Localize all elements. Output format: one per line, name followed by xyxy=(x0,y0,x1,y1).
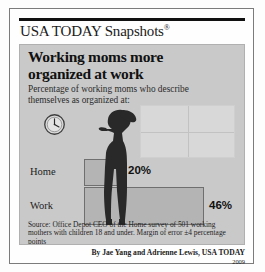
chart-panel: Working moms more organized at work Perc… xyxy=(19,44,245,245)
byline: By Jae Yang and Adrienne Lewis, USA TODA… xyxy=(19,248,245,266)
source-note: Source: Office Depot CEO of the Home sur… xyxy=(28,221,228,245)
registered-trademark-icon: ® xyxy=(164,23,170,32)
window-mullion-horizontal xyxy=(141,132,234,133)
clock-icon xyxy=(44,114,65,135)
chart-subtitle: Percentage of working moms who describe … xyxy=(28,84,228,105)
brand-title: USA TODAY Snapshots® xyxy=(20,23,170,39)
brand-header: USA TODAY Snapshots® xyxy=(20,22,246,41)
byline-credit: By Jae Yang and Adrienne Lewis, USA TODA… xyxy=(91,248,245,257)
value-label-work: 46% xyxy=(209,199,232,211)
brand-divider-rule xyxy=(19,18,245,21)
window-pane-graphic xyxy=(140,105,235,158)
byline-year: 2009 xyxy=(19,257,245,266)
chart-headline: Working moms more organized at work xyxy=(28,49,218,82)
snapshot-infographic: USA TODAY Snapshots® Working moms more o… xyxy=(0,0,265,272)
category-label-work: Work xyxy=(30,200,53,211)
category-label-home: Home xyxy=(30,166,56,177)
working-mom-silhouette xyxy=(92,107,140,225)
brand-title-text: USA TODAY Snapshots xyxy=(20,23,164,39)
